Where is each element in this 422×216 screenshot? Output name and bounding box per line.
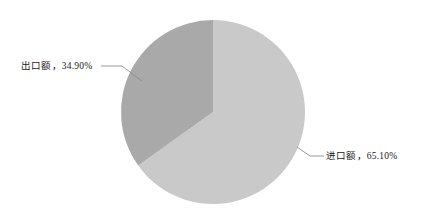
pie-chart-canvas xyxy=(0,0,422,216)
pie-label-export: 出口额，34.90% xyxy=(21,60,92,72)
pie-chart-figure: 出口额，34.90% 进口额，65.10% xyxy=(0,0,422,216)
pie-label-import: 进口额，65.10% xyxy=(326,150,397,162)
leader-line-import xyxy=(297,147,324,156)
